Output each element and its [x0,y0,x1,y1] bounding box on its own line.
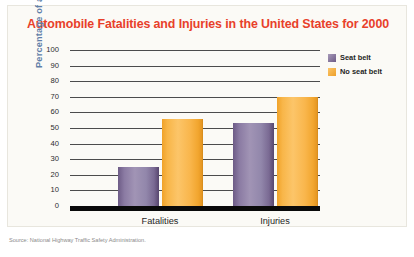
chart-legend: Seat beltNo seat belt [328,53,408,81]
bar-fatalities-seat-belt [118,167,159,206]
y-axis-tick-label: 40 [19,140,59,148]
gridline [70,81,320,82]
y-axis-tick-label: 0 [19,202,59,210]
gridline [70,66,320,67]
legend-swatch-icon [328,54,336,62]
x-axis-tick-label: Injuries [215,216,335,226]
y-axis-tick-label: 10 [19,186,59,194]
y-axis-tick-label: 60 [19,108,59,116]
x-axis-tick-label: Fatalities [100,216,220,226]
plot-area: 1009080706050403020100 FatalitiesInjurie… [63,44,321,212]
legend-item: No seat belt [328,67,408,76]
legend-swatch-icon [328,68,336,76]
page-title: Automobile Fatalities and Injuries in th… [8,17,408,31]
bar-injuries-no-seat-belt [277,97,318,206]
y-axis-tick-label: 100 [19,46,59,54]
x-axis-baseline [70,206,320,211]
y-axis-tick-label: 30 [19,155,59,163]
bar-fatalities-no-seat-belt [162,119,203,206]
legend-item: Seat belt [328,53,408,62]
y-axis-tick-label: 90 [19,62,59,70]
y-axis-tick-label: 80 [19,77,59,85]
y-axis-tick-label: 20 [19,171,59,179]
bar-injuries-seat-belt [233,123,274,206]
y-axis-tick-label: 70 [19,93,59,101]
gridline [70,50,320,51]
legend-label: Seat belt [340,53,371,62]
legend-label: No seat belt [340,67,382,76]
y-axis-tick-label: 50 [19,124,59,132]
y-axis-title: Percentage of accidents [34,0,44,68]
chart-card: Automobile Fatalities and Injuries in th… [7,5,407,227]
source-note: Source: National Highway Traffic Safety … [9,237,146,243]
chart-figure: Automobile Fatalities and Injuries in th… [0,0,414,257]
